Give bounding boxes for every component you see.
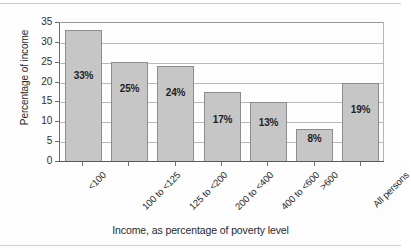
- bar-1[interactable]: [111, 62, 148, 162]
- y-tick-label-25: 25: [20, 57, 52, 67]
- y-tick-label-0: 0: [20, 156, 52, 166]
- x-tick-mark-0: [82, 162, 83, 166]
- y-tick-label-5: 5: [20, 136, 52, 146]
- y-tick-label-15: 15: [20, 96, 52, 106]
- gridline-30: [60, 43, 384, 44]
- x-tick-label-5: >600: [318, 170, 340, 192]
- bar-0[interactable]: [65, 30, 102, 162]
- y-tick-label-20: 20: [20, 77, 52, 87]
- x-tick-mark-6: [360, 162, 361, 166]
- bar-value-label-5: 8%: [296, 134, 333, 144]
- x-tick-mark-1: [128, 162, 129, 166]
- y-tick-label-30: 30: [20, 37, 52, 47]
- x-tick-label-6: All persons: [371, 170, 411, 210]
- bar-4[interactable]: [250, 102, 287, 162]
- gridline-25: [60, 63, 384, 64]
- page-rule-bottom: [0, 245, 401, 246]
- bar-value-label-3: 17%: [204, 115, 241, 125]
- bar-6[interactable]: [342, 83, 379, 162]
- x-tick-label-1: 100 to <125: [140, 170, 182, 212]
- x-axis-title: Income, as percentage of poverty level: [0, 224, 401, 236]
- bar-value-label-6: 19%: [342, 105, 379, 115]
- bar-value-label-0: 33%: [65, 71, 102, 81]
- x-tick-mark-5: [314, 162, 315, 166]
- x-tick-label-3: 200 to <400: [233, 170, 275, 212]
- gridline-20: [60, 83, 384, 84]
- x-tick-mark-4: [267, 162, 268, 166]
- y-tick-label-35: 35: [20, 17, 52, 27]
- y-tick-label-10: 10: [20, 116, 52, 126]
- bar-value-label-1: 25%: [111, 84, 148, 94]
- plot-area: 33%25%24%17%13%8%19%: [59, 22, 384, 162]
- x-tick-label-4: 400 to <600: [279, 170, 321, 212]
- bar-2[interactable]: [157, 66, 194, 162]
- plot-right-border: [383, 22, 384, 161]
- page-rule-top: [0, 3, 401, 4]
- x-tick-mark-2: [175, 162, 176, 166]
- x-tick-mark-3: [221, 162, 222, 166]
- bar-value-label-4: 13%: [250, 118, 287, 128]
- bar-3[interactable]: [204, 92, 241, 162]
- x-tick-label-0: <100: [86, 170, 108, 192]
- bar-value-label-2: 24%: [157, 88, 194, 98]
- x-tick-label-2: 125 to <200: [187, 170, 229, 212]
